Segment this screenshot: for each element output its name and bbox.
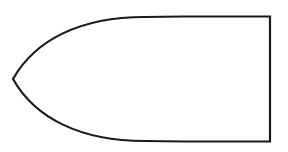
bullet-shape-outline	[13, 17, 270, 142]
diagram-canvas	[0, 0, 288, 152]
